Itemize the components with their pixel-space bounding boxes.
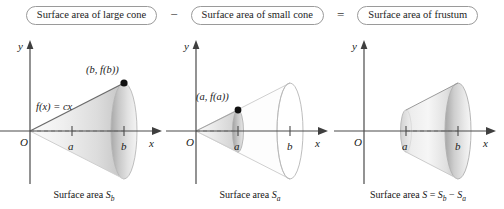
panel-frustum: y x O a b Surface area S = Sb − Sa bbox=[334, 28, 502, 209]
x-axis-arrowhead bbox=[152, 127, 162, 135]
y-axis-label: y bbox=[17, 40, 23, 52]
caption-minus: − bbox=[447, 189, 458, 200]
caption-frustum: Surface area S = Sb − Sa bbox=[334, 189, 502, 205]
y-axis-arrowhead bbox=[361, 40, 368, 49]
x-axis-label: x bbox=[482, 137, 488, 149]
term-small-cone: Surface area of small cone bbox=[191, 6, 324, 25]
tick-label-a: a bbox=[234, 140, 240, 152]
caption-subscript: a bbox=[277, 194, 281, 203]
y-axis-label: y bbox=[183, 40, 189, 52]
caption-small-cone: Surface area Sa bbox=[166, 189, 334, 205]
tick-label-b: b bbox=[121, 140, 127, 152]
x-axis-arrowhead bbox=[318, 127, 328, 135]
panels-container: y x O a b (b, f(b)) f(x) = cx Surface ar… bbox=[0, 28, 504, 209]
point-label-b: (b, f(b)) bbox=[86, 64, 119, 76]
tick-label-a: a bbox=[68, 140, 74, 152]
point-label-a: (a, f(a)) bbox=[196, 91, 229, 103]
panel-large-cone: y x O a b (b, f(b)) f(x) = cx Surface ar… bbox=[0, 28, 168, 209]
x-axis-arrowhead bbox=[486, 127, 496, 135]
y-axis-arrowhead bbox=[193, 40, 200, 49]
equals-operator: = bbox=[324, 9, 357, 21]
x-axis-label: x bbox=[148, 137, 154, 149]
origin-label: O bbox=[186, 136, 194, 148]
minus-operator: − bbox=[157, 9, 190, 21]
point-dot-a bbox=[235, 107, 242, 114]
origin-label: O bbox=[354, 136, 362, 148]
point-dot-b bbox=[120, 79, 127, 86]
panel-small-cone: y x O a b (a, f(a)) Surface area Sa bbox=[166, 28, 334, 209]
term-large-cone: Surface area of large cone bbox=[26, 6, 157, 25]
function-label: f(x) = cx bbox=[36, 101, 73, 113]
plot-frustum: y x O a b bbox=[334, 28, 502, 184]
caption-text: Surface area bbox=[54, 189, 106, 200]
caption-subscript: b bbox=[111, 194, 115, 203]
y-axis-label: y bbox=[351, 40, 357, 52]
plot-small-cone: y x O a b (a, f(a)) bbox=[166, 28, 334, 184]
caption-large-cone: Surface area Sb bbox=[0, 189, 168, 205]
caption-subscript-a: a bbox=[462, 194, 466, 203]
frustum-surface-area-figure: Surface area of large cone − Surface are… bbox=[0, 0, 504, 209]
tick-label-b: b bbox=[287, 140, 293, 152]
y-axis-arrowhead bbox=[27, 40, 34, 49]
caption-equals: = bbox=[427, 189, 438, 200]
origin-label: O bbox=[20, 136, 28, 148]
plot-large-cone: y x O a b (b, f(b)) f(x) = cx bbox=[0, 28, 168, 184]
caption-text: Surface area bbox=[370, 189, 422, 200]
equation-row: Surface area of large cone − Surface are… bbox=[0, 2, 504, 28]
caption-text: Surface area bbox=[220, 189, 272, 200]
tick-label-a: a bbox=[402, 140, 408, 152]
x-axis-label: x bbox=[314, 137, 320, 149]
tick-label-b: b bbox=[455, 140, 461, 152]
term-frustum: Surface area of frustum bbox=[357, 6, 478, 25]
